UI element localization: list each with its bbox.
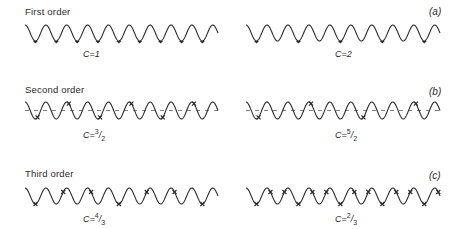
cross-marker-icon <box>282 190 286 194</box>
c-label-prefix: C= <box>83 214 95 224</box>
c-label-denominator: 2 <box>101 135 105 142</box>
c-label-prefix: C= <box>83 49 95 59</box>
c-label-denominator: 3 <box>353 219 357 226</box>
c-label-value: 2 <box>347 49 352 59</box>
c-label-4-3: C=4/3 <box>83 212 105 226</box>
c-label-denominator: 2 <box>353 135 357 142</box>
cross-marker-icon <box>436 190 440 194</box>
c-label-prefix: C= <box>335 49 347 59</box>
c-label-numerator: 4 <box>95 212 99 219</box>
cross-marker-icon <box>352 190 356 194</box>
wave-path <box>246 188 440 204</box>
cross-marker-icon <box>394 190 398 194</box>
c-label-prefix: C= <box>83 130 95 140</box>
cross-marker-icon <box>366 190 370 194</box>
c-label-value: 1 <box>95 49 100 59</box>
c-label-denominator: 3 <box>101 219 105 226</box>
c-label-2: C=2 <box>335 49 352 59</box>
c-label-numerator: 2 <box>347 212 351 219</box>
c-label-5-2: C=5/2 <box>335 128 357 142</box>
c-label-numerator: 5 <box>347 128 351 135</box>
cross-marker-icon <box>268 190 272 194</box>
cross-marker-icon <box>310 190 314 194</box>
c-label-2-3: C=2/3 <box>335 212 357 226</box>
wave-third-order-c2-3 <box>0 0 464 229</box>
c-label-prefix: C= <box>335 130 347 140</box>
c-label-1: C=1 <box>83 49 100 59</box>
c-label-3-2: C=3/2 <box>83 128 105 142</box>
c-label-prefix: C= <box>335 214 347 224</box>
cross-marker-icon <box>324 190 328 194</box>
cross-marker-icon <box>408 190 412 194</box>
c-label-numerator: 3 <box>95 128 99 135</box>
